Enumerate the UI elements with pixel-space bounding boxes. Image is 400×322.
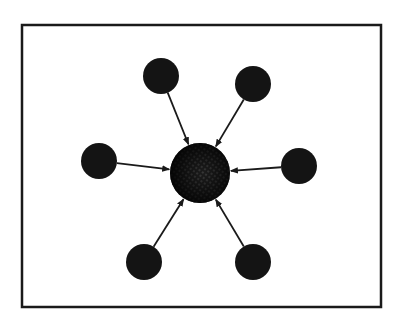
node-top-right [235,66,271,102]
arrow-node-top-left-to-hub [168,93,189,145]
node-left [81,143,117,179]
hub-node-shading [170,143,230,203]
hub-spoke-diagram [0,0,400,322]
hub-node-group [170,143,230,203]
arrow-node-bottom-right-to-hub [216,200,244,247]
node-top-left [143,58,179,94]
node-bottom-left [126,244,162,280]
node-bottom-right [235,244,271,280]
arrow-node-top-right-to-hub [216,99,244,146]
arrow-node-left-to-hub [117,163,169,169]
arrow-node-bottom-left-to-hub [154,199,184,247]
arrow-node-right-to-hub [231,167,281,171]
node-right [281,148,317,184]
